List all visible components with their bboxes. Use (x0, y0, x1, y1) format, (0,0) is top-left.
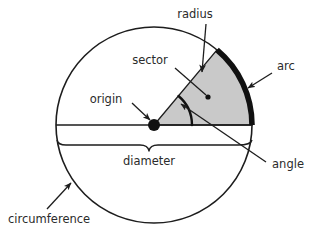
label-angle: angle (272, 157, 304, 171)
circle-parts-diagram: radius sector arc origin angle diameter … (0, 0, 317, 241)
label-circumference: circumference (8, 212, 90, 226)
arc-leader-line (248, 73, 272, 88)
label-sector: sector (132, 53, 168, 67)
label-origin: origin (90, 92, 123, 106)
label-arc: arc (277, 59, 295, 73)
origin-dot (148, 119, 160, 131)
circle-diagram-canvas: radius sector arc origin angle diameter … (0, 0, 317, 241)
label-radius: radius (177, 7, 213, 21)
sector-interior-dot (205, 94, 210, 99)
diameter-brace (57, 140, 252, 151)
origin-leader-line (132, 103, 150, 120)
label-diameter: diameter (123, 154, 175, 168)
circumference-leader-line (47, 183, 71, 209)
